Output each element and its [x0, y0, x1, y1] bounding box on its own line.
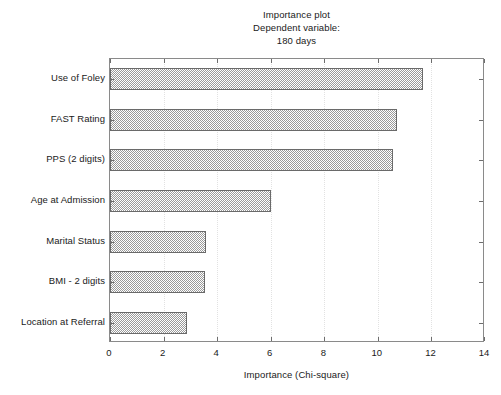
- y-axis-label: Use of Foley: [0, 72, 105, 83]
- x-axis-tick: [164, 337, 165, 341]
- y-axis-labels: Use of FoleyFAST RatingPPS (2 digits)Age…: [0, 58, 105, 342]
- y-axis-tick: [479, 242, 483, 243]
- bar: [110, 312, 187, 334]
- x-axis-tick-label: 2: [160, 347, 165, 358]
- x-axis-tick: [271, 59, 272, 63]
- x-axis-tick-label: 10: [372, 347, 383, 358]
- bar: [110, 271, 205, 293]
- x-axis-tick: [217, 337, 218, 341]
- y-axis-label: BMI - 2 digits: [0, 275, 105, 286]
- x-axis-tick: [431, 59, 432, 63]
- y-axis-tick: [110, 282, 114, 283]
- x-axis-title: Importance (Chi-square): [109, 369, 484, 380]
- x-axis-tick: [378, 59, 379, 63]
- x-axis-tick-label: 6: [267, 347, 272, 358]
- x-axis-tick: [110, 59, 111, 63]
- y-axis-tick: [479, 323, 483, 324]
- bar: [110, 68, 423, 90]
- x-axis-tick: [271, 337, 272, 341]
- x-axis-tick: [484, 59, 485, 63]
- x-axis-tick: [324, 59, 325, 63]
- bar: [110, 109, 397, 131]
- x-axis-tick-labels: 02468101214: [109, 347, 484, 361]
- x-axis-tick-label: 14: [479, 347, 490, 358]
- y-axis-tick: [110, 120, 114, 121]
- y-axis-tick: [110, 160, 114, 161]
- y-axis-label: FAST Rating: [0, 113, 105, 124]
- x-axis-tick: [378, 337, 379, 341]
- x-axis-tick: [217, 59, 218, 63]
- y-axis-label: Marital Status: [0, 235, 105, 246]
- y-axis-tick: [479, 79, 483, 80]
- y-axis-tick: [479, 201, 483, 202]
- y-axis-tick: [479, 120, 483, 121]
- x-axis-tick: [110, 337, 111, 341]
- importance-plot-figure: Importance plot Dependent variable: 180 …: [0, 0, 501, 395]
- x-axis-tick-label: 8: [321, 347, 326, 358]
- bar: [110, 190, 271, 212]
- x-gridline: [378, 59, 380, 341]
- chart-title-block: Importance plot Dependent variable: 180 …: [109, 8, 484, 47]
- bar: [110, 149, 393, 171]
- y-axis-label: PPS (2 digits): [0, 153, 105, 164]
- bar: [110, 231, 206, 253]
- chart-subtitle: Dependent variable:: [109, 21, 484, 34]
- x-axis-tick-label: 4: [213, 347, 218, 358]
- x-axis-tick-label: 12: [425, 347, 436, 358]
- x-gridline: [431, 59, 433, 341]
- x-axis-tick: [164, 59, 165, 63]
- x-axis-tick-label: 0: [106, 347, 111, 358]
- y-axis-tick: [110, 242, 114, 243]
- y-axis-label: Location at Referral: [0, 316, 105, 327]
- y-axis-tick: [479, 160, 483, 161]
- x-axis-tick: [431, 337, 432, 341]
- x-gridline: [271, 59, 273, 341]
- y-axis-tick: [479, 282, 483, 283]
- y-axis-tick: [110, 201, 114, 202]
- y-axis-tick: [110, 79, 114, 80]
- x-axis-tick: [324, 337, 325, 341]
- plot-area: [109, 58, 484, 342]
- y-axis-label: Age at Admission: [0, 194, 105, 205]
- chart-title: Importance plot: [109, 8, 484, 21]
- x-axis-tick: [484, 337, 485, 341]
- y-axis-tick: [110, 323, 114, 324]
- x-gridline: [324, 59, 326, 341]
- chart-subtitle-value: 180 days: [109, 34, 484, 47]
